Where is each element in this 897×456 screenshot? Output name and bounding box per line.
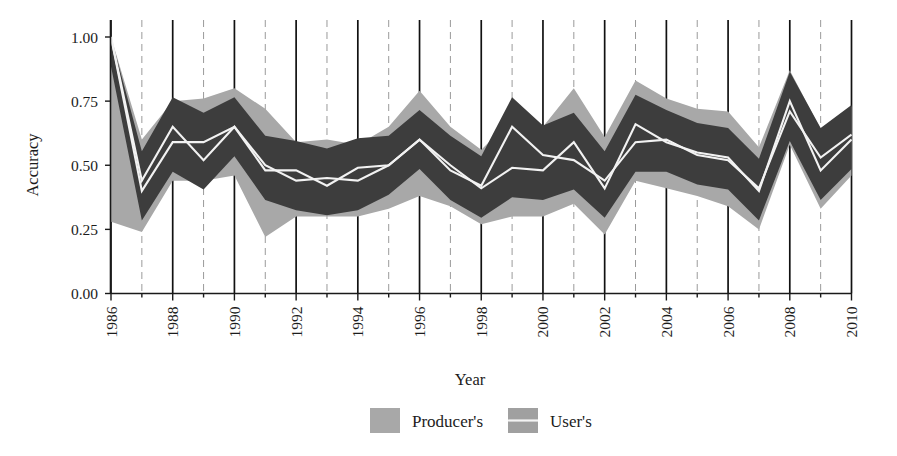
x-tick-label-2002: 2002	[596, 307, 613, 338]
y-tick-label-0.50: 0.50	[71, 157, 98, 174]
legend-swatch-producers	[370, 408, 400, 433]
x-tick-label-1998: 1998	[473, 306, 490, 337]
y-tick-label-0.00: 0.00	[71, 285, 98, 302]
x-tick-label-2010: 2010	[843, 306, 860, 337]
legend-label-producers: Producer's	[412, 412, 483, 431]
x-tick-label-1990: 1990	[226, 306, 243, 337]
x-tick-label-2008: 2008	[781, 306, 798, 337]
x-tick-label-2006: 2006	[720, 306, 737, 337]
x-tick-label-1992: 1992	[288, 307, 305, 338]
x-tick-label-2000: 2000	[534, 306, 551, 337]
legend-label-users: User's	[550, 412, 592, 431]
x-tick-label-2004: 2004	[658, 306, 675, 337]
x-tick-label-1986: 1986	[103, 306, 120, 337]
x-axis-label: Year	[455, 370, 486, 389]
accuracy-ribbon-chart: 0.000.250.500.751.00 1986198819901992199…	[0, 0, 897, 456]
x-tick-label-1988: 1988	[164, 306, 181, 337]
y-tick-label-0.25: 0.25	[71, 221, 98, 238]
chart-figure: 0.000.250.500.751.00 1986198819901992199…	[0, 0, 897, 456]
y-axis-label: Accuracy	[23, 133, 42, 197]
x-tick-label-1996: 1996	[411, 306, 428, 337]
y-tick-label-0.75: 0.75	[71, 93, 98, 110]
y-tick-label-1.00: 1.00	[71, 29, 98, 46]
x-tick-label-1994: 1994	[349, 306, 366, 337]
